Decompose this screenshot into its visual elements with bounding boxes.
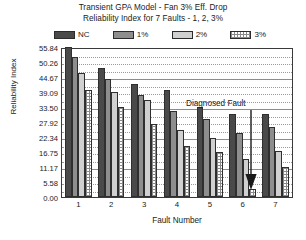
x-axis-tick-labels: 1234567 (61, 200, 293, 212)
bar-group-fault-5 (197, 49, 223, 197)
bar-2pct-fault-1 (78, 73, 85, 197)
legend-swatch-1pct (113, 31, 134, 39)
y-tick-label: 11.17 (14, 164, 58, 173)
legend-label-2pct: 2% (196, 30, 208, 39)
bar-NC-fault-4 (164, 90, 171, 197)
legend-swatch-3pct (230, 31, 251, 39)
x-tick-label: 2 (109, 200, 113, 209)
bar-3pct-fault-3 (151, 124, 158, 197)
legend-item-nc: NC (54, 30, 90, 39)
y-tick-label: 33.50 (14, 104, 58, 113)
y-tick-label: 0.00 (14, 194, 58, 203)
bar-2pct-fault-3 (144, 100, 151, 197)
bar-group-fault-2 (98, 49, 124, 197)
y-axis-tick-labels: 0.005.5811.1716.7522.3427.9233.5039.0944… (14, 0, 58, 240)
chart-legend: NC 1% 2% 3% (54, 28, 266, 41)
bar-2pct-fault-4 (177, 130, 184, 197)
x-tick-label: 7 (273, 200, 277, 209)
y-tick-label: 44.67 (14, 74, 58, 83)
legend-label-1pct: 1% (137, 30, 149, 39)
legend-item-2pct: 2% (172, 30, 208, 39)
diagnosed-fault-annotation-label: Diagnosed Fault (186, 99, 246, 108)
y-tick-label: 55.84 (14, 44, 58, 53)
bar-3pct-fault-4 (184, 146, 191, 197)
y-tick-label: 16.75 (14, 149, 58, 158)
diagnosed-fault-arrow-icon (243, 110, 259, 192)
bar-NC-fault-7 (262, 114, 269, 197)
x-tick-label: 3 (142, 200, 146, 209)
bar-group-fault-3 (131, 49, 157, 197)
bar-3pct-fault-2 (118, 107, 125, 197)
bar-group-fault-1 (65, 49, 91, 197)
bar-NC-fault-3 (131, 84, 138, 197)
bar-1pct-fault-1 (72, 57, 79, 197)
bar-1pct-fault-2 (105, 79, 112, 197)
bar-NC-fault-5 (197, 107, 204, 197)
x-tick-label: 5 (208, 200, 212, 209)
legend-item-1pct: 1% (113, 30, 149, 39)
bar-3pct-fault-5 (216, 152, 223, 197)
x-axis-label: Fault Number (61, 216, 293, 225)
y-tick-label: 50.26 (14, 59, 58, 68)
y-tick-label: 22.34 (14, 134, 58, 143)
bar-1pct-fault-4 (170, 111, 177, 197)
reliability-index-bar-chart: Transient GPA Model - Fan 3% Eff. Drop R… (0, 0, 306, 240)
bar-group-fault-4 (164, 49, 190, 197)
bar-2pct-fault-7 (275, 151, 282, 197)
bar-2pct-fault-5 (210, 138, 217, 197)
x-tick-label: 6 (240, 200, 244, 209)
legend-label-nc: NC (78, 30, 90, 39)
legend-item-3pct: 3% (230, 30, 266, 39)
legend-label-3pct: 3% (254, 30, 266, 39)
bar-group-fault-7 (262, 49, 288, 197)
bar-1pct-fault-6 (236, 133, 243, 197)
legend-swatch-2pct (172, 31, 193, 39)
bar-1pct-fault-5 (203, 119, 210, 197)
bar-NC-fault-1 (65, 47, 72, 197)
bar-2pct-fault-2 (111, 92, 118, 197)
y-tick-label: 27.92 (14, 119, 58, 128)
bar-NC-fault-6 (229, 114, 236, 197)
bar-1pct-fault-7 (269, 127, 276, 197)
bar-NC-fault-2 (98, 68, 105, 197)
bar-3pct-fault-7 (282, 167, 289, 197)
x-tick-label: 1 (76, 200, 80, 209)
y-tick-label: 5.58 (14, 179, 58, 188)
y-tick-label: 39.09 (14, 89, 58, 98)
bar-1pct-fault-3 (138, 95, 145, 197)
x-tick-label: 4 (175, 200, 179, 209)
bar-3pct-fault-1 (85, 90, 92, 197)
